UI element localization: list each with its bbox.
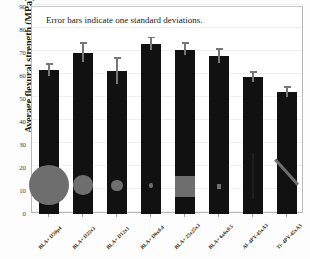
- plot-area: Error bars indicate one standard deviati…: [31, 6, 303, 213]
- x-tick-label: BLA+ D50µ4: [37, 225, 63, 251]
- error-bar-cap: [80, 42, 87, 43]
- y-tick-label: 10: [8, 187, 26, 194]
- error-bar-cap: [250, 71, 257, 72]
- overlay-shape-circle: [149, 183, 154, 188]
- error-bar: [82, 44, 83, 62]
- bar[interactable]: [209, 56, 229, 214]
- bar[interactable]: [107, 71, 127, 214]
- x-axis-label-group: BLA+ D50µ4BLA+ D25x3BLA+ D12x1BLA+ D6x0.…: [0, 214, 310, 259]
- error-bar-cap: [46, 63, 53, 64]
- y-tick-label: 70: [8, 49, 26, 56]
- x-tick-label: Al- 4PY-45xA3: [241, 222, 269, 250]
- y-tick-label: 40: [8, 118, 26, 125]
- overlay-shape-circle: [73, 175, 93, 195]
- x-tick-mark: [82, 214, 83, 217]
- x-tick-label: BLA+ D12x1: [105, 225, 130, 250]
- x-tick-mark: [48, 214, 49, 217]
- overlay-shape-square: [175, 176, 196, 197]
- error-bar: [150, 38, 151, 50]
- bar-series: [32, 7, 304, 214]
- error-bar: [116, 59, 117, 84]
- overlay-shape-square: [217, 184, 222, 189]
- overlay-shape-circle: [111, 180, 123, 192]
- bar[interactable]: [141, 44, 161, 214]
- x-tick-label: BLA+ 6x6x0.5: [207, 223, 234, 250]
- y-tick-label: 30: [8, 141, 26, 148]
- y-tick-label: 80: [8, 26, 26, 33]
- x-tick-mark: [150, 214, 151, 217]
- error-bar: [286, 88, 287, 97]
- x-tick-mark: [218, 214, 219, 217]
- error-bar: [48, 65, 49, 77]
- error-bar-cap: [114, 57, 121, 58]
- x-tick-mark: [286, 214, 287, 217]
- chart-root: Average flexural strength (MPa) 90 80 70…: [0, 0, 310, 259]
- error-bar-cap: [216, 48, 223, 49]
- error-bar: [252, 73, 253, 82]
- overlay-shape-bar-vertical: [252, 153, 254, 199]
- y-tick-label: 50: [8, 95, 26, 102]
- x-tick-mark: [184, 214, 185, 217]
- y-tick-label: 20: [8, 164, 26, 171]
- bar[interactable]: [277, 92, 297, 214]
- x-tick-label: Ti- 4PY-45xA3: [275, 222, 303, 250]
- x-tick-label: BLA+ 25x25x3: [173, 222, 201, 250]
- x-tick-mark: [116, 214, 117, 217]
- error-bar-cap: [182, 42, 189, 43]
- grid-line: [32, 4, 302, 5]
- error-bar-cap: [148, 37, 155, 38]
- error-bar: [184, 44, 185, 56]
- y-tick-label: 60: [8, 72, 26, 79]
- x-tick-label: BLA+ D25x3: [71, 225, 96, 250]
- y-tick-label: 90: [8, 3, 26, 10]
- x-tick-mark: [252, 214, 253, 217]
- bar-group[interactable]: [209, 7, 229, 214]
- x-tick-label: BLA+ D6x0.4: [139, 224, 165, 250]
- error-bar-cap: [284, 86, 291, 87]
- overlay-shape-circle: [29, 165, 69, 205]
- error-bar: [218, 50, 219, 64]
